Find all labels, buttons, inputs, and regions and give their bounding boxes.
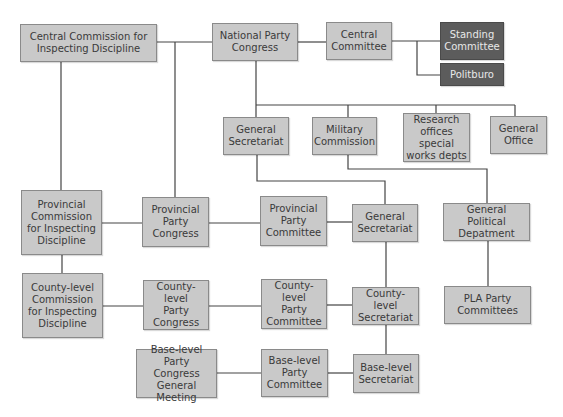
node-label: Central Committee xyxy=(331,29,387,53)
node-general-office: General Office xyxy=(490,116,547,154)
node-county-commission: County-level Commission for Inspecting D… xyxy=(22,273,103,338)
node-national-party-congress: National Party Congress xyxy=(212,23,298,61)
node-label: Central Commission for Inspecting Discip… xyxy=(30,31,148,55)
node-label: Provincial Party Committee xyxy=(266,203,322,239)
node-general-secretariat-mid: General Secretariat xyxy=(352,204,418,242)
node-label: Research offices special works depts xyxy=(406,114,467,162)
node-label: National Party Congress xyxy=(220,30,291,54)
node-label: County-level Party Congress xyxy=(146,281,206,329)
node-label: General Secretariat xyxy=(357,211,412,235)
node-provincial-party-congress: Provincial Party Congress xyxy=(142,197,209,247)
node-label: Standing Committee xyxy=(444,29,500,53)
node-county-secretariat: County-level Secretariat xyxy=(352,287,419,325)
node-county-party-committee: County-level Party Committee xyxy=(261,279,327,329)
node-provincial-commission: Provincial Commission for Inspecting Dis… xyxy=(21,190,102,255)
node-central-commission: Central Commission for Inspecting Discip… xyxy=(20,24,157,62)
node-label: Base-level Secretariat xyxy=(358,362,413,386)
node-county-party-congress: County-level Party Congress xyxy=(143,280,209,330)
node-politburo: Politburo xyxy=(440,63,504,86)
node-label: General Secretariat xyxy=(228,124,283,148)
node-label: Politburo xyxy=(450,69,494,81)
node-standing-committee: Standing Committee xyxy=(440,22,504,60)
node-central-committee: Central Committee xyxy=(326,22,392,60)
node-label: Provincial Party Congress xyxy=(151,204,199,240)
node-military-commission: Military Commission xyxy=(312,117,377,155)
node-label: Military Commission xyxy=(314,124,375,148)
node-base-party-committee: Base-level Party Committee xyxy=(261,349,328,397)
node-provincial-party-committee: Provincial Party Committee xyxy=(260,196,327,246)
node-label: Base-level Party Committee xyxy=(267,355,323,391)
node-label: PLA Party Committees xyxy=(457,293,518,317)
node-label: Base-level Party Congress General Meetin… xyxy=(139,344,214,404)
node-base-party-congress: Base-level Party Congress General Meetin… xyxy=(136,349,217,398)
node-label: County-level Party Committee xyxy=(264,280,324,328)
node-label: County-level Commission for Inspecting D… xyxy=(28,282,97,330)
node-label: General Political Depatment xyxy=(446,204,527,240)
node-pla-party-committees: PLA Party Committees xyxy=(444,286,531,324)
node-research-offices: Research offices special works depts xyxy=(403,113,470,162)
node-base-secretariat: Base-level Secretariat xyxy=(353,354,419,393)
node-label: County-level Secretariat xyxy=(355,288,416,324)
node-general-secretariat-top: General Secretariat xyxy=(223,117,289,155)
node-label: General Office xyxy=(499,123,538,147)
node-label: Provincial Commission for Inspecting Dis… xyxy=(27,199,96,247)
node-general-political-department: General Political Depatment xyxy=(443,203,530,241)
